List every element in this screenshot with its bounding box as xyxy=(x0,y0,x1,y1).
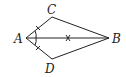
label-d: D xyxy=(44,62,55,76)
label-a: A xyxy=(13,32,23,46)
label-c: C xyxy=(47,3,56,17)
kite-diagram: C A B D xyxy=(0,0,126,77)
label-b: B xyxy=(111,32,121,46)
